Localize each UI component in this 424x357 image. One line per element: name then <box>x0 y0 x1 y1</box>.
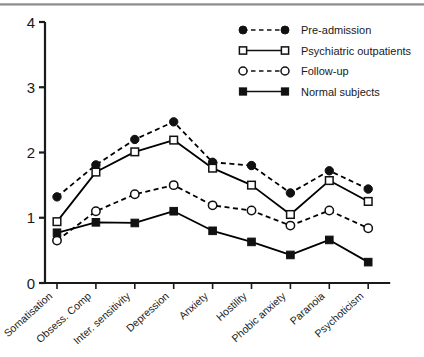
data-point-marker <box>325 167 333 175</box>
data-point-marker <box>209 227 217 235</box>
x-axis-category-label: Hostility <box>213 289 249 323</box>
x-axis-category-label: Anxiety <box>176 289 210 321</box>
y-tick-label: 1 <box>27 209 35 226</box>
legend-label: Psychiatric outpatients <box>301 45 412 57</box>
legend-item-normal-subjects[interactable]: Normal subjects <box>239 86 380 98</box>
data-point-marker <box>364 224 372 232</box>
legend-label: Pre-admission <box>301 24 371 36</box>
data-point-marker <box>53 193 61 201</box>
data-point-marker <box>364 198 372 206</box>
data-point-marker <box>287 211 295 219</box>
series-pre-admission <box>53 118 373 201</box>
data-point-marker <box>131 219 139 227</box>
data-point-marker <box>131 190 139 198</box>
data-point-marker <box>287 251 295 259</box>
data-point-marker <box>286 189 294 197</box>
data-point-marker <box>53 229 61 237</box>
x-axis-category-label: Depression <box>124 289 172 334</box>
data-point-marker <box>325 206 333 214</box>
legend-label: Follow-up <box>301 65 349 77</box>
data-point-marker <box>131 148 139 156</box>
data-point-marker <box>170 136 178 144</box>
line-chart: 01234 SomatisationObsess. CompInter. sen… <box>0 0 424 357</box>
x-axis: SomatisationObsess. CompInter. sensitivi… <box>1 283 390 347</box>
y-tick-label: 4 <box>27 14 35 31</box>
data-point-marker <box>170 181 178 189</box>
data-point-marker <box>326 236 334 244</box>
series-follow-up <box>53 181 373 245</box>
data-point-marker <box>286 221 294 229</box>
data-point-marker <box>364 258 372 266</box>
data-point-marker <box>364 185 372 193</box>
data-point-marker <box>170 118 178 126</box>
data-point-marker <box>326 177 334 185</box>
y-tick-label: 3 <box>27 79 35 96</box>
data-point-marker <box>248 181 256 189</box>
series-layer <box>53 118 373 266</box>
legend-item-follow-up[interactable]: Follow-up <box>239 65 349 77</box>
legend-item-pre-admission[interactable]: Pre-admission <box>239 24 371 36</box>
y-tick-label: 2 <box>27 144 35 161</box>
data-point-marker <box>247 206 255 214</box>
data-point-marker <box>209 164 217 172</box>
data-point-marker <box>53 236 61 244</box>
data-point-marker <box>248 238 256 246</box>
legend-label: Normal subjects <box>301 86 380 98</box>
y-tick-label: 0 <box>27 275 35 292</box>
chart-legend: Pre-admissionPsychiatric outpatientsFoll… <box>239 24 412 98</box>
data-point-marker <box>92 207 100 215</box>
x-axis-category-label: Paranoia <box>287 289 326 326</box>
data-point-marker <box>92 219 100 227</box>
data-point-marker <box>208 201 216 209</box>
series-normal-subjects <box>53 207 372 265</box>
figure-container: 01234 SomatisationObsess. CompInter. sen… <box>0 0 424 357</box>
data-point-marker <box>131 135 139 143</box>
data-point-marker <box>53 218 61 226</box>
y-axis: 01234 <box>27 14 45 292</box>
legend-marker <box>239 26 289 34</box>
data-point-marker <box>247 161 255 169</box>
data-point-marker <box>170 207 178 215</box>
legend-marker <box>239 67 289 75</box>
legend-item-psychiatric-outpatients[interactable]: Psychiatric outpatients <box>239 45 411 57</box>
data-point-marker <box>92 168 100 176</box>
